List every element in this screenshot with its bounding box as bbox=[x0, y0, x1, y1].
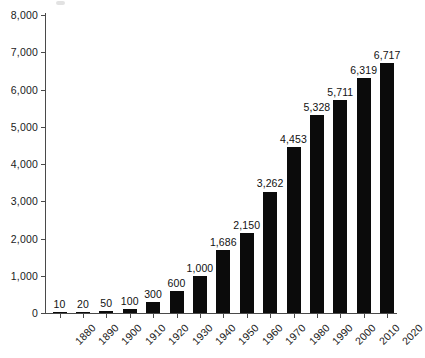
bar bbox=[263, 192, 277, 314]
x-axis-line bbox=[45, 313, 397, 314]
x-axis-tick-label: 2020 bbox=[400, 322, 425, 347]
x-axis-tick-label: 1940 bbox=[213, 322, 238, 347]
bar bbox=[193, 276, 207, 313]
x-axis-tick bbox=[106, 314, 107, 318]
x-axis-tick bbox=[83, 314, 84, 318]
x-axis-tick-label: 1910 bbox=[143, 322, 168, 347]
bar-value-label: 100 bbox=[121, 296, 139, 307]
x-axis-tick-label: 2000 bbox=[353, 322, 378, 347]
x-axis-tick-label: 1890 bbox=[96, 322, 121, 347]
x-axis-tick bbox=[177, 314, 178, 318]
x-axis-tick-label: 1970 bbox=[283, 322, 308, 347]
bar-value-label: 50 bbox=[100, 298, 112, 309]
bar bbox=[310, 115, 324, 313]
bar-value-label: 1,000 bbox=[187, 263, 214, 274]
x-axis-tick-label: 1960 bbox=[260, 322, 285, 347]
x-axis-tick-label: 1950 bbox=[236, 322, 261, 347]
bar-value-label: 300 bbox=[144, 289, 162, 300]
bar bbox=[53, 312, 67, 314]
x-axis-tick bbox=[270, 314, 271, 318]
bar bbox=[123, 309, 137, 313]
bar-value-label: 10 bbox=[54, 299, 66, 310]
bar-value-label: 3,262 bbox=[257, 178, 284, 189]
bar-value-label: 2,150 bbox=[233, 220, 260, 231]
y-axis-tick bbox=[41, 313, 45, 314]
x-axis-tick bbox=[223, 314, 224, 318]
bar bbox=[380, 63, 394, 313]
x-axis-tick bbox=[340, 314, 341, 318]
x-axis-tick-label: 1900 bbox=[119, 322, 144, 347]
x-axis-tick bbox=[60, 314, 61, 318]
x-axis-tick bbox=[247, 314, 248, 318]
bar-value-label: 5,711 bbox=[327, 87, 353, 98]
x-axis-tick-label: 1990 bbox=[330, 322, 355, 347]
bar bbox=[333, 100, 347, 313]
x-axis-tick-label: 1980 bbox=[307, 322, 332, 347]
bar bbox=[146, 302, 160, 313]
x-axis-tick bbox=[130, 314, 131, 318]
bar bbox=[287, 147, 301, 313]
bar-value-label: 5,328 bbox=[304, 102, 331, 113]
x-axis-tick-label: 1920 bbox=[166, 322, 191, 347]
x-axis-tick bbox=[317, 314, 318, 318]
bar bbox=[99, 311, 113, 313]
bar-value-label: 20 bbox=[77, 299, 89, 310]
x-axis-tick bbox=[294, 314, 295, 318]
bar bbox=[170, 291, 184, 313]
x-axis-tick-label: 2010 bbox=[377, 322, 402, 347]
x-axis-tick bbox=[387, 314, 388, 318]
bar-value-label: 1,686 bbox=[210, 237, 237, 248]
x-axis-tick bbox=[200, 314, 201, 318]
bar-value-label: 6,717 bbox=[374, 50, 401, 61]
bar bbox=[76, 312, 90, 314]
bar-value-label: 6,319 bbox=[350, 65, 377, 76]
x-axis-tick bbox=[153, 314, 154, 318]
bar bbox=[240, 233, 254, 313]
bar bbox=[216, 250, 230, 313]
x-axis-tick-label: 1880 bbox=[73, 322, 98, 347]
bar bbox=[357, 78, 371, 313]
bar-value-label: 600 bbox=[168, 278, 186, 289]
bar-value-label: 4,453 bbox=[280, 134, 307, 145]
x-axis-tick bbox=[364, 314, 365, 318]
x-axis-tick-label: 1930 bbox=[190, 322, 215, 347]
